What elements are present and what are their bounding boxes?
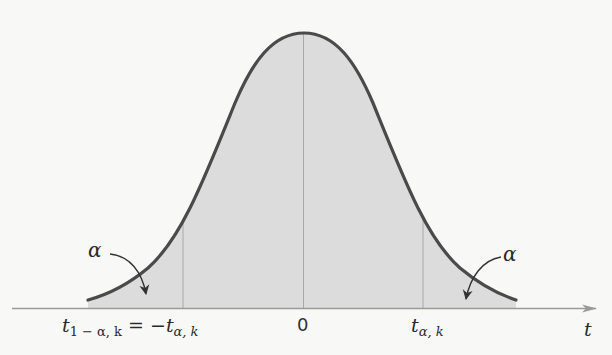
right-critical-value-label: tα, k — [411, 316, 444, 335]
subscript-one-minus-alpha-k: 1 − α, k — [70, 324, 122, 339]
left-critical-value-label: t1 − α, k = −tα, k — [62, 316, 198, 335]
t-symbol: t — [411, 314, 419, 336]
right-tail-alpha-label: α — [503, 244, 517, 264]
equals-minus: = − — [122, 314, 166, 336]
axis-variable-label: t — [584, 320, 592, 339]
t-symbol: t — [62, 314, 70, 336]
t-distribution-plot — [0, 0, 612, 355]
t-distribution-figure: α α t1 − α, k = −tα, k 0 tα, k t — [0, 0, 612, 355]
cropped-caption — [0, 347, 612, 355]
density-area-fill — [88, 33, 516, 308]
t-symbol: t — [166, 314, 174, 336]
subscript-alpha-k: α, k — [419, 324, 444, 339]
zero-label: 0 — [297, 316, 308, 334]
left-tail-alpha-label: α — [88, 240, 102, 260]
subscript-alpha-k: α, k — [174, 324, 199, 339]
